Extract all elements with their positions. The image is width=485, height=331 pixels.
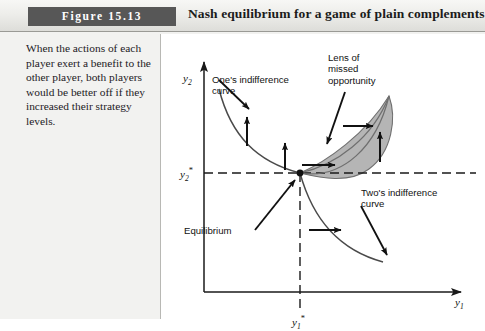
- y-axis-label-sub: 2: [188, 78, 192, 87]
- x-star-sub: 1: [297, 322, 301, 331]
- diagram-svg: [161, 34, 485, 319]
- lens-of-missed-opportunity-label: Lens of missed opportunity: [328, 52, 375, 86]
- lens-label-pointer: [327, 92, 345, 144]
- header-divider: [0, 31, 485, 32]
- y-axis-label: y2: [183, 72, 192, 87]
- ones-indifference-curve-label: One's indifference curve: [212, 74, 289, 97]
- equilibrium-point: [297, 170, 304, 177]
- equilibrium-label: Equilibrium: [184, 225, 231, 236]
- y-star-asterisk: *: [189, 165, 193, 175]
- y-star-tick-label: y2*: [180, 165, 193, 183]
- lens-of-missed-opportunity-region: [300, 96, 393, 179]
- ones-indifference-curve-path: [219, 89, 300, 173]
- equilibrium-label-pointer: [255, 180, 295, 230]
- figure-number-tag: Figure 15.13: [28, 7, 176, 26]
- y-star-sub: 2: [185, 174, 189, 183]
- x-star-asterisk: *: [301, 313, 305, 323]
- x-star-tick-label: y1*: [292, 313, 305, 331]
- x-axis-label: y1: [455, 296, 464, 311]
- twos-curve-label-pointer: [361, 206, 387, 255]
- x-axis-label-sub: 1: [460, 302, 464, 311]
- twos-indifference-curve-label: Two's indifference curve: [361, 187, 437, 210]
- plot-panel: One's indifference curve Lens of missed …: [160, 34, 485, 319]
- figure-title: Nash equilibrium for a game of plain com…: [188, 6, 485, 22]
- figure-caption: When the actions of each player exert a …: [26, 41, 151, 129]
